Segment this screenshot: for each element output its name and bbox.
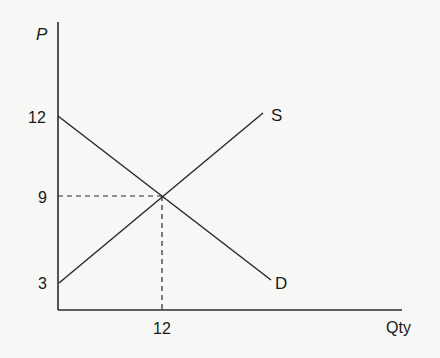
y-tick-9: 9 bbox=[38, 189, 47, 206]
x-axis-label: Qty bbox=[386, 319, 411, 336]
demand-curve bbox=[58, 116, 271, 280]
y-tick-12: 12 bbox=[28, 109, 46, 126]
supply-demand-chart: P Qty 12 9 3 12 S D bbox=[0, 0, 440, 358]
y-tick-3: 3 bbox=[38, 275, 47, 292]
supply-label: S bbox=[271, 106, 282, 125]
supply-curve bbox=[59, 113, 263, 283]
x-tick-12: 12 bbox=[153, 320, 171, 337]
y-axis-label: P bbox=[36, 25, 48, 44]
demand-label: D bbox=[275, 274, 287, 293]
